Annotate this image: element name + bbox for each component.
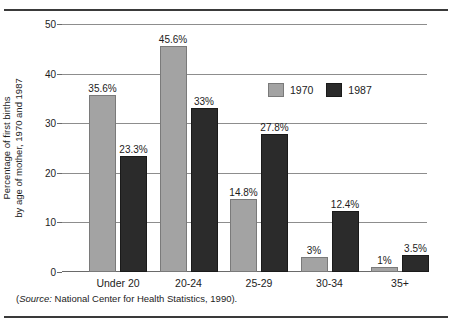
bar-1970: 1% <box>371 267 398 272</box>
source-rest: National Center for Health Statistics, 1… <box>52 293 237 304</box>
y-axis-tick-mark <box>57 272 62 273</box>
legend-item-1970: 1970 <box>268 83 313 97</box>
bar-group: 14.8%27.8% <box>230 24 288 272</box>
bar-1970: 35.6% <box>89 95 116 272</box>
bar-value-label: 23.3% <box>119 144 147 155</box>
legend-item-1987: 1987 <box>326 83 371 97</box>
chart-figure: Percentage of first births by age of mot… <box>0 0 452 325</box>
source-italic-word: Source: <box>19 293 52 304</box>
y-axis-tick-label: 0 <box>4 267 56 278</box>
y-axis-tick-label: 50 <box>4 19 56 30</box>
bar-group: 35.6%23.3% <box>89 24 147 272</box>
y-axis-tick-mark <box>57 74 62 75</box>
bar-1970: 45.6% <box>160 46 187 272</box>
legend-label-1987: 1987 <box>348 84 371 96</box>
y-axis-tick-label: 10 <box>4 217 56 228</box>
legend-swatch-1987 <box>326 83 342 97</box>
x-axis-category-label: Under 20 <box>96 277 139 289</box>
bar-1987: 12.4% <box>332 211 359 273</box>
y-axis-tick-mark <box>57 24 62 25</box>
bar-value-label: 14.8% <box>229 187 257 198</box>
bar-value-label: 12.4% <box>331 199 359 210</box>
bar-group: 3%12.4% <box>301 24 359 272</box>
bar-1987: 23.3% <box>120 156 147 272</box>
y-axis-tick-label: 30 <box>4 118 56 129</box>
y-axis-title-line1: Percentage of first births <box>1 78 13 217</box>
x-axis-category-label: 30-34 <box>316 277 343 289</box>
bar-value-label: 3% <box>307 245 321 256</box>
x-axis-category-label: 20-24 <box>175 277 202 289</box>
bar-value-label: 35.6% <box>88 83 116 94</box>
y-axis-tick-mark <box>57 173 62 174</box>
y-axis-tick-mark <box>57 123 62 124</box>
bar-1987: 33% <box>191 108 218 272</box>
bar-1970: 3% <box>301 257 328 272</box>
bar-group: 1%3.5% <box>371 24 429 272</box>
bar-1987: 3.5% <box>402 255 429 272</box>
bar-1970: 14.8% <box>230 199 257 272</box>
bar-value-label: 45.6% <box>159 34 187 45</box>
x-axis-category-label: 35+ <box>391 277 409 289</box>
bar-value-label: 1% <box>377 255 391 266</box>
bar-value-label: 3.5% <box>404 243 427 254</box>
bottom-divider-rule <box>4 316 448 318</box>
bar-group: 45.6%33% <box>160 24 218 272</box>
y-axis-tick-label: 20 <box>4 167 56 178</box>
legend-label-1970: 1970 <box>290 84 313 96</box>
bar-value-label: 27.8% <box>260 122 288 133</box>
bar-1987: 27.8% <box>261 134 288 272</box>
y-axis-title-line2: by age of mother, 1970 and 1987 <box>13 78 25 217</box>
top-divider-rule <box>4 9 448 11</box>
legend-swatch-1970 <box>268 83 284 97</box>
y-axis-tick-label: 40 <box>4 68 56 79</box>
x-axis-category-label: 25-29 <box>246 277 273 289</box>
chart-legend: 1970 1987 <box>268 83 372 97</box>
y-axis-title: Percentage of first births by age of mot… <box>0 24 28 272</box>
bar-value-label: 33% <box>194 96 214 107</box>
source-note: (Source: National Center for Health Stat… <box>16 293 237 304</box>
y-axis-tick-mark <box>57 222 62 223</box>
plot-area: 01020304050 35.6%23.3%45.6%33%14.8%27.8%… <box>62 24 427 272</box>
